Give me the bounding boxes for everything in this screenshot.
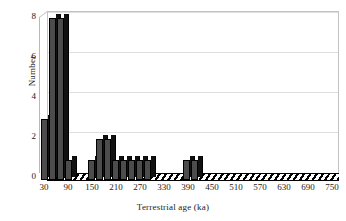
- x-tick-label: 390: [175, 182, 201, 192]
- bar-front-face: [128, 160, 135, 180]
- bar-front-face: [191, 160, 198, 180]
- bar-side-face: [151, 157, 156, 177]
- bar-row: [96, 139, 103, 180]
- x-tick-label: 510: [223, 182, 249, 192]
- bar-row: [191, 160, 198, 180]
- bar-row: [49, 18, 56, 180]
- bar-side-face: [72, 157, 77, 177]
- x-tick-label: 270: [127, 182, 153, 192]
- x-tick-label: 630: [271, 182, 297, 192]
- bar-front-face: [57, 18, 64, 180]
- bar-front-face: [183, 160, 190, 180]
- x-axis-tick-labels: 30 90 150 210 270 330 390 450 510 570 63…: [0, 182, 346, 196]
- x-tick-label: 690: [295, 182, 321, 192]
- bar-row: [41, 119, 48, 180]
- bar-front-face: [65, 160, 72, 180]
- bar-front-face: [120, 160, 127, 180]
- x-tick-label: 30: [31, 182, 57, 192]
- x-tick-label: 210: [103, 182, 129, 192]
- bar-row: [88, 160, 95, 180]
- bar-front-face: [112, 160, 119, 180]
- bar-front-face: [49, 18, 56, 180]
- bar-row: [144, 160, 151, 180]
- bar-front-face: [104, 139, 111, 180]
- x-tick-label: 450: [199, 182, 225, 192]
- bar-front-face: [41, 119, 48, 180]
- histogram-chart: Number 8 6 4 2 0: [0, 0, 346, 221]
- bar-front-face: [88, 160, 95, 180]
- bar-row: [136, 160, 143, 180]
- bar-row: [57, 18, 64, 180]
- x-axis-title: Terrestrial age (ka): [0, 202, 346, 212]
- bar-row: [104, 139, 111, 180]
- bar-row: [120, 160, 127, 180]
- bar-side-face: [64, 15, 69, 177]
- bar-front-face: [136, 160, 143, 180]
- bar-row: [183, 160, 190, 180]
- x-tick-label: 150: [79, 182, 105, 192]
- x-tick-label: 330: [151, 182, 177, 192]
- bar-front-face: [96, 139, 103, 180]
- x-tick-label: 570: [247, 182, 273, 192]
- x-tick-label: 90: [55, 182, 81, 192]
- x-tick-label: 750: [319, 182, 345, 192]
- bar-row: [65, 160, 72, 180]
- bar-front-face: [144, 160, 151, 180]
- bar-side-face: [198, 157, 203, 177]
- bar-row: [128, 160, 135, 180]
- bar-row: [112, 160, 119, 180]
